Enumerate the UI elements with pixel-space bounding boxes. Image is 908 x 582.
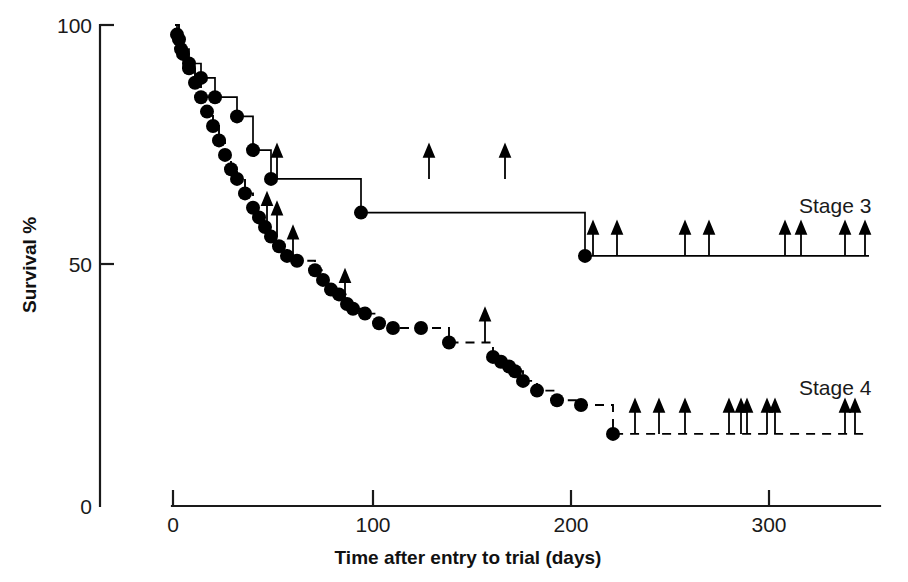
event-dot xyxy=(414,321,428,335)
page-edge-artifact xyxy=(0,566,908,582)
series-label-stage-4: Stage 4 xyxy=(799,376,872,399)
censor-arrow-icon xyxy=(630,400,640,434)
series-layer xyxy=(170,25,870,441)
event-dot xyxy=(238,186,252,200)
curve-stage-4 xyxy=(175,25,869,434)
survival-chart: 100 50 0 Survival % 0 100 200 300 Time a… xyxy=(0,0,908,582)
y-tick-label-0: 0 xyxy=(80,495,92,518)
event-dot xyxy=(290,254,304,268)
event-dot xyxy=(550,393,564,407)
censor-arrow-icon xyxy=(780,222,790,256)
event-dot xyxy=(442,336,456,350)
event-dot xyxy=(516,374,530,388)
event-dot xyxy=(372,316,386,330)
series-stage-4 xyxy=(172,25,869,441)
x-tick-label-300: 300 xyxy=(751,513,786,536)
event-dot xyxy=(346,302,360,316)
event-dot xyxy=(230,109,244,123)
curve-stage-3 xyxy=(175,25,869,256)
event-dot xyxy=(230,172,244,186)
censor-arrow-icon xyxy=(612,222,622,256)
event-dot xyxy=(208,90,222,104)
event-dot xyxy=(386,321,400,335)
event-dot xyxy=(188,76,202,90)
event-dot xyxy=(176,47,190,61)
event-dot xyxy=(194,90,208,104)
censor-arrow-icon xyxy=(724,400,734,434)
event-dot xyxy=(354,206,368,220)
y-tick-label-100: 100 xyxy=(57,14,92,37)
censor-arrow-icon xyxy=(480,309,490,343)
x-tick-label-100: 100 xyxy=(355,513,390,536)
event-dot xyxy=(212,133,226,147)
event-dot xyxy=(246,143,260,157)
censor-arrow-icon xyxy=(840,400,850,434)
x-axis-title: Time after entry to trial (days) xyxy=(335,547,602,568)
censor-arrow-icon xyxy=(680,400,690,434)
event-dot xyxy=(574,398,588,412)
event-dot xyxy=(200,105,214,119)
censor-arrow-icon xyxy=(860,222,870,256)
event-dot xyxy=(182,61,196,75)
censor-arrow-icon xyxy=(850,400,860,434)
event-dot xyxy=(264,172,278,186)
censor-arrow-icon xyxy=(424,145,434,179)
censor-arrow-icon xyxy=(840,222,850,256)
censor-arrow-icon xyxy=(762,400,772,434)
event-dot xyxy=(358,307,372,321)
event-dot xyxy=(206,119,220,133)
y-axis-title: Survival % xyxy=(19,217,40,313)
y-tick-label-50: 50 xyxy=(69,253,92,276)
event-dot xyxy=(172,32,186,46)
censor-arrow-icon xyxy=(680,222,690,256)
figure-root: 100 50 0 Survival % 0 100 200 300 Time a… xyxy=(0,0,908,582)
censor-arrow-icon xyxy=(654,400,664,434)
censor-arrow-icon xyxy=(704,222,714,256)
censor-arrow-icon xyxy=(500,145,510,179)
censor-arrow-icon xyxy=(770,400,780,434)
event-dot xyxy=(218,148,232,162)
censor-arrow-icon xyxy=(796,222,806,256)
x-tick-label-200: 200 xyxy=(553,513,588,536)
x-tick-label-0: 0 xyxy=(167,513,179,536)
event-dot xyxy=(606,427,620,441)
series-label-stage-3: Stage 3 xyxy=(799,194,871,217)
series-stage-3 xyxy=(170,25,870,263)
event-dot xyxy=(578,249,592,263)
event-dot xyxy=(530,384,544,398)
